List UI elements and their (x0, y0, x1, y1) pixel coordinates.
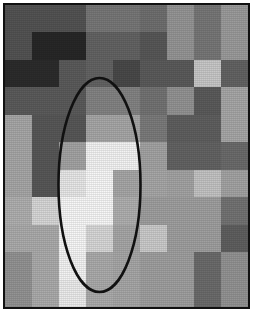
heatmap-cell (113, 32, 140, 59)
heatmap-cell (167, 60, 194, 87)
heatmap-cell (86, 87, 113, 114)
heatmap-cell (32, 5, 59, 32)
heatmap-cell (167, 225, 194, 252)
heatmap-cell (140, 225, 167, 252)
heatmap-cell (194, 170, 221, 197)
heatmap-cell (59, 60, 86, 87)
heatmap-cell (194, 252, 221, 279)
heatmap-cell (140, 170, 167, 197)
heatmap-cell (167, 142, 194, 169)
heatmap-cell (59, 197, 86, 224)
heatmap-cell (194, 60, 221, 87)
heatmap-cell (221, 170, 248, 197)
heatmap-cell (32, 225, 59, 252)
heatmap-cell (86, 5, 113, 32)
heatmap-cell (113, 87, 140, 114)
heatmap-cell (194, 197, 221, 224)
heatmap-cell (194, 32, 221, 59)
heatmap-cell (86, 280, 113, 307)
heatmap-cell (140, 197, 167, 224)
heatmap-cell (167, 197, 194, 224)
heatmap-cell (221, 142, 248, 169)
heatmap-cell (59, 5, 86, 32)
heatmap-cell (140, 252, 167, 279)
heatmap-cell (5, 225, 32, 252)
heatmap-grid (5, 5, 248, 307)
heatmap-cell (5, 32, 32, 59)
heatmap-cell (86, 252, 113, 279)
heatmap-cell (32, 280, 59, 307)
heatmap-cell (86, 142, 113, 169)
heatmap-cell (113, 60, 140, 87)
heatmap-cell (86, 32, 113, 59)
heatmap-frame (3, 3, 250, 309)
heatmap-cell (113, 142, 140, 169)
heatmap-cell (59, 225, 86, 252)
heatmap-cell (221, 252, 248, 279)
heatmap-cell (5, 60, 32, 87)
heatmap-cell (221, 5, 248, 32)
heatmap-cell (32, 32, 59, 59)
heatmap-cell (140, 87, 167, 114)
heatmap-cell (86, 60, 113, 87)
heatmap-cell (194, 225, 221, 252)
heatmap-cell (32, 142, 59, 169)
heatmap-cell (221, 115, 248, 142)
heatmap-cell (5, 252, 32, 279)
heatmap-cell (86, 115, 113, 142)
heatmap-cell (32, 60, 59, 87)
heatmap-cell (5, 5, 32, 32)
heatmap-cell (59, 115, 86, 142)
heatmap-cell (140, 115, 167, 142)
heatmap-cell (59, 87, 86, 114)
heatmap-cell (221, 60, 248, 87)
heatmap-cell (113, 225, 140, 252)
heatmap-cell (86, 170, 113, 197)
heatmap-cell (5, 142, 32, 169)
heatmap-cell (5, 170, 32, 197)
heatmap-cell (140, 280, 167, 307)
heatmap-cell (167, 170, 194, 197)
heatmap-cell (86, 225, 113, 252)
heatmap-cell (140, 142, 167, 169)
heatmap-cell (221, 197, 248, 224)
heatmap-cell (221, 280, 248, 307)
heatmap-cell (113, 197, 140, 224)
heatmap-cell (221, 225, 248, 252)
heatmap-cell (59, 170, 86, 197)
heatmap-cell (113, 280, 140, 307)
heatmap-cell (32, 170, 59, 197)
heatmap-cell (140, 60, 167, 87)
heatmap-cell (59, 252, 86, 279)
heatmap-cell (194, 87, 221, 114)
figure-container (0, 0, 259, 326)
heatmap-cell (86, 197, 113, 224)
heatmap-cell (167, 87, 194, 114)
heatmap-cell (167, 115, 194, 142)
heatmap-cell (194, 115, 221, 142)
heatmap-cell (194, 5, 221, 32)
heatmap-cell (194, 280, 221, 307)
heatmap-cell (167, 5, 194, 32)
heatmap-cell (32, 87, 59, 114)
heatmap-cell (221, 32, 248, 59)
heatmap-cell (113, 115, 140, 142)
heatmap-cell (32, 115, 59, 142)
heatmap-cell (5, 197, 32, 224)
heatmap-cell (5, 280, 32, 307)
heatmap-cell (221, 87, 248, 114)
heatmap-cell (59, 32, 86, 59)
heatmap-cell (167, 252, 194, 279)
heatmap-cell (113, 5, 140, 32)
heatmap-cell (59, 280, 86, 307)
heatmap-cell (140, 5, 167, 32)
heatmap-cell (194, 142, 221, 169)
heatmap-cell (167, 32, 194, 59)
heatmap-cell (113, 170, 140, 197)
heatmap-cell (32, 197, 59, 224)
heatmap-cell (167, 280, 194, 307)
heatmap-cell (32, 252, 59, 279)
heatmap-cell (5, 87, 32, 114)
heatmap-cell (113, 252, 140, 279)
heatmap-cell (140, 32, 167, 59)
